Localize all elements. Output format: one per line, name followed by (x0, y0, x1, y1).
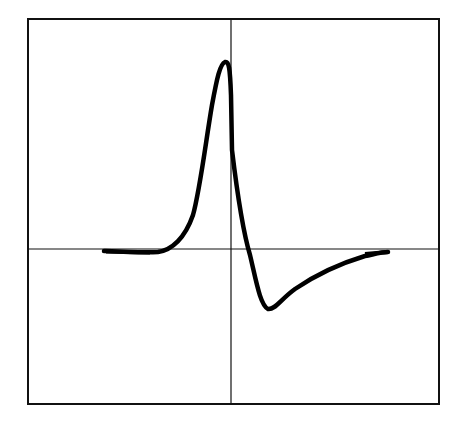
baseline-thickening-left (106, 252, 150, 253)
waveform-diagram (0, 0, 461, 424)
waveform-curve (104, 62, 388, 309)
baseline-thickening-right (365, 252, 388, 254)
plot-frame (28, 19, 439, 404)
